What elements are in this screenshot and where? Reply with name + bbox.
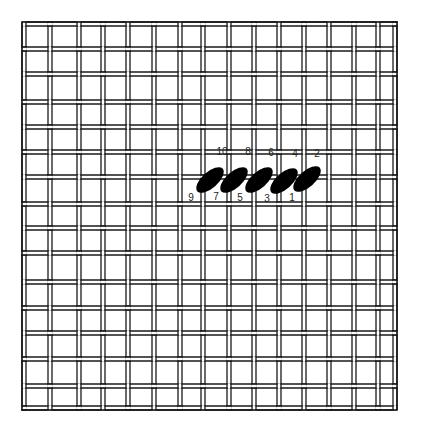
stitch-step-number: 8	[245, 147, 251, 157]
needlepoint-canvas	[0, 0, 421, 429]
stitch-step-number: 4	[292, 149, 298, 159]
stitch-step-number: 9	[188, 193, 194, 203]
canvas-mesh	[21, 21, 398, 410]
stitch-step-number: 10	[216, 147, 227, 157]
stitch-step-number: 5	[237, 193, 243, 203]
stitch-step-number: 2	[314, 149, 320, 159]
stitch-step-number: 7	[213, 192, 219, 202]
stitch-step-number: 1	[289, 193, 295, 203]
stitch-step-number: 3	[264, 194, 270, 204]
stitch-step-number: 6	[268, 148, 274, 158]
